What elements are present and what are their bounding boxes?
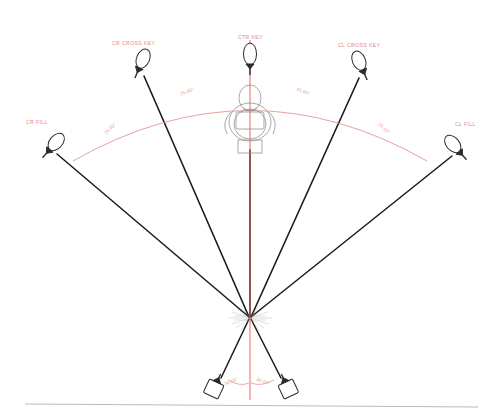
lighting-plot-svg <box>0 0 501 419</box>
fixture-head <box>203 379 224 399</box>
fixture-cl-fill[interactable] <box>441 132 471 164</box>
fixture-head <box>244 43 257 65</box>
ground-rule <box>25 404 478 407</box>
fixture-cr-fill[interactable] <box>38 130 68 162</box>
label-cr-fill: CR FILL <box>26 119 48 125</box>
ray-cr-cross-key <box>144 76 249 317</box>
fixture-stem <box>462 155 467 160</box>
fixture-stem <box>135 72 138 78</box>
fixture-ctr-key[interactable] <box>244 43 257 75</box>
fixture-stem <box>42 153 47 158</box>
fixture-head <box>278 379 299 399</box>
ray-cr-back <box>221 319 249 378</box>
label-cl-cross-key: CL CROSS KEY <box>338 42 380 48</box>
label-ctr-key: CTR KEY <box>238 34 263 40</box>
lighting-diagram-canvas: CR FILL CR CROSS KEY CTR KEY CL CROSS KE… <box>0 0 501 419</box>
fixture-cl-back[interactable] <box>274 371 299 400</box>
fixture-group <box>38 43 472 399</box>
fixture-cl-cross-key[interactable] <box>349 49 373 83</box>
ray-cl-fill <box>251 156 452 317</box>
fixture-stem <box>364 74 367 80</box>
light-ray-group <box>57 76 452 378</box>
ray-cr-fill <box>57 154 249 317</box>
label-cr-cross-key: CR CROSS KEY <box>112 40 155 46</box>
ray-cl-cross-key <box>251 78 359 317</box>
ray-cl-back <box>251 319 281 378</box>
label-cl-fill: CL FILL <box>455 121 476 127</box>
fixture-cr-cross-key[interactable] <box>129 47 153 81</box>
